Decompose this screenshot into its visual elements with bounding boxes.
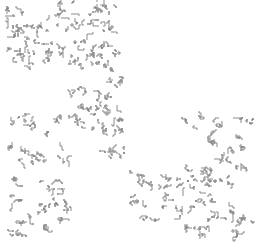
- fractal-segment: [190, 184, 194, 188]
- fractal-segment: [101, 22, 105, 26]
- fractal-segment: [112, 118, 116, 126]
- fractal-segment: [66, 156, 72, 158]
- fractal-segment: [39, 204, 43, 206]
- fractal-segment: [32, 51, 34, 55]
- fractal-segment: [215, 123, 217, 127]
- fractal-segment: [50, 41, 52, 45]
- fractal-segment: [117, 105, 121, 113]
- fractal-segment: [89, 13, 91, 15]
- fractal-segment: [38, 159, 40, 161]
- fractal-segment: [98, 47, 102, 49]
- fractal-segment: [63, 158, 65, 164]
- fractal-segment: [194, 179, 198, 181]
- fractal-segment: [23, 56, 25, 60]
- fractal-segment: [22, 162, 26, 168]
- fractal-segment: [239, 119, 241, 123]
- fractal-segment: [202, 201, 206, 205]
- fractal-segment: [193, 126, 197, 130]
- fractal-segment: [57, 179, 63, 183]
- fractal-segment: [24, 41, 26, 45]
- fractal-segment: [71, 24, 73, 26]
- fractal-segment: [75, 18, 77, 24]
- fractal-segment: [97, 97, 99, 101]
- fractal-segment: [69, 207, 71, 211]
- fractal-segment: [250, 221, 254, 223]
- fractal-segment: [163, 186, 167, 188]
- fractal-segment: [93, 6, 97, 8]
- fractal-segment: [57, 14, 61, 18]
- fractal-segment: [198, 199, 202, 203]
- fractal-segment: [38, 211, 40, 215]
- fractal-segment: [246, 120, 248, 122]
- fractal-segment: [82, 126, 86, 128]
- fractal-segment: [118, 52, 120, 54]
- fractal-segment: [168, 178, 170, 182]
- fractal-segment: [176, 211, 182, 215]
- fractal-segment: [213, 179, 217, 183]
- fractal-segment: [49, 48, 51, 56]
- fractal-segment: [49, 204, 51, 208]
- fractal-pattern: [0, 0, 259, 243]
- fractal-segment: [80, 122, 84, 124]
- fractal-segment: [31, 128, 35, 130]
- fractal-segment: [200, 191, 206, 193]
- fractal-segment: [111, 153, 113, 155]
- fractal-segment: [90, 107, 92, 109]
- fractal-segment: [13, 58, 17, 62]
- fractal-segment: [73, 25, 81, 29]
- fractal-segment: [95, 0, 97, 2]
- fractal-segment: [10, 203, 12, 211]
- fractal-segment: [201, 168, 205, 172]
- fractal-segment: [91, 61, 93, 65]
- fractal-segment: [92, 10, 98, 12]
- fractal-segment: [17, 116, 19, 118]
- fractal-segment: [228, 146, 232, 154]
- fractal-segment: [200, 117, 204, 119]
- fractal-segment: [93, 22, 99, 26]
- fractal-segment: [24, 37, 30, 39]
- fractal-segment: [93, 45, 97, 49]
- fractal-segment: [226, 156, 228, 160]
- fractal-segment: [174, 215, 180, 219]
- fractal-segment: [57, 190, 63, 194]
- fractal-segment: [100, 44, 102, 46]
- fractal-segment: [211, 210, 215, 216]
- fractal-segment: [107, 20, 109, 28]
- fractal-segment: [6, 18, 8, 22]
- fractal-segment: [60, 142, 64, 150]
- fractal-segment: [15, 24, 17, 28]
- fractal-segment: [83, 107, 89, 109]
- fractal-segment: [235, 233, 237, 237]
- fractal-segment: [227, 175, 229, 179]
- fractal-segment: [235, 166, 239, 170]
- fractal-segment: [30, 218, 34, 224]
- fractal-segment: [184, 119, 188, 123]
- fractal-segment: [6, 22, 8, 28]
- fractal-segment: [22, 114, 30, 116]
- fractal-segment: [130, 195, 136, 197]
- fractal-segment: [23, 24, 27, 28]
- fractal-segment: [45, 132, 49, 134]
- fractal-segment: [78, 86, 80, 90]
- fractal-segment: [230, 149, 234, 153]
- fractal-segment: [5, 14, 15, 16]
- fractal-segment: [249, 123, 253, 125]
- fractal-segment: [166, 174, 172, 180]
- fractal-segment: [19, 159, 23, 161]
- fractal-segment: [25, 45, 27, 53]
- fractal-segment: [119, 153, 121, 159]
- fractal-segment: [11, 117, 13, 123]
- fractal-segment: [68, 60, 72, 64]
- fractal-segment: [208, 218, 210, 222]
- fractal-segment: [233, 237, 237, 241]
- fractal-segment: [67, 159, 69, 167]
- fractal-segment: [78, 46, 84, 50]
- fractal-segment: [57, 43, 61, 49]
- fractal-segment: [97, 63, 99, 65]
- fractal-segment: [90, 114, 96, 116]
- fractal-segment: [236, 134, 242, 140]
- fractal-segment: [139, 216, 145, 218]
- fractal-segment: [32, 25, 34, 27]
- fractal-segment: [122, 146, 124, 150]
- fractal-segment: [51, 189, 55, 195]
